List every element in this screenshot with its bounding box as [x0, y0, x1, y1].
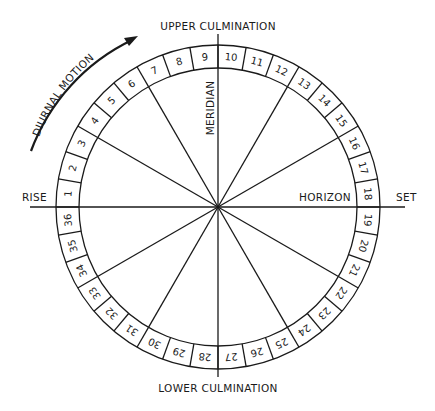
segment-number: 34: [74, 263, 89, 279]
lower-culmination-label: LOWER CULMINATION: [158, 382, 277, 394]
set-label: SET: [396, 191, 417, 203]
segment-number: 28: [198, 351, 212, 363]
upper-culmination-label: UPPER CULMINATION: [160, 20, 276, 32]
segment-number: 10: [224, 51, 238, 63]
segment-divider: [355, 179, 378, 183]
segment-number: 13: [296, 76, 313, 92]
segment-number: 16: [347, 135, 362, 151]
segment-number: 1: [62, 190, 74, 197]
segment-number: 17: [356, 160, 370, 175]
segment-number: 11: [249, 55, 264, 69]
segment-divider: [66, 152, 88, 160]
segment-divider: [137, 67, 149, 87]
segment-number: 26: [249, 345, 264, 359]
segment-number: 5: [105, 94, 117, 106]
segment-divider: [266, 338, 274, 360]
segment-number: 14: [316, 92, 333, 109]
segment-number: 32: [103, 305, 120, 322]
segment-divider: [66, 255, 88, 263]
arrow-head-icon: [124, 36, 138, 46]
horizon-label: HORIZON: [299, 191, 351, 203]
segment-number: 19: [362, 213, 374, 227]
segment-number: 23: [316, 305, 333, 322]
segment-divider: [163, 55, 171, 77]
segment-divider: [58, 231, 81, 235]
segment-divider: [355, 231, 378, 235]
segment-number: 3: [75, 138, 88, 148]
segment-number: 36: [62, 213, 74, 227]
segment-divider: [349, 152, 371, 160]
segment-divider: [349, 255, 371, 263]
hour-spoke: [149, 207, 219, 327]
segment-number: 18: [362, 187, 374, 201]
segment-number: 6: [126, 77, 138, 90]
segment-number: 8: [175, 55, 184, 67]
diurnal-motion-diagram: 1234567891011121314151617181920212223242…: [0, 0, 435, 411]
segment-number: 20: [356, 238, 370, 253]
hour-spoke: [218, 207, 338, 277]
rise-label: RISE: [22, 191, 47, 203]
hour-spoke: [98, 138, 218, 208]
segment-divider: [190, 47, 194, 70]
hour-spoke: [218, 207, 288, 327]
segment-divider: [242, 47, 246, 70]
hour-spoke: [218, 87, 288, 207]
segment-number: 21: [347, 263, 362, 279]
segment-number: 25: [274, 336, 290, 351]
segment-divider: [58, 179, 81, 183]
segment-number: 4: [88, 115, 101, 127]
segment-number: 27: [224, 351, 238, 363]
diurnal-motion-text-path: [38, 35, 130, 140]
segment-divider: [94, 103, 112, 118]
segment-divider: [190, 344, 194, 367]
segment-number: 9: [201, 51, 208, 63]
hour-spoke: [98, 207, 218, 277]
segment-number: 31: [123, 322, 140, 338]
segment-number: 35: [66, 238, 80, 253]
segment-divider: [163, 338, 171, 360]
segment-number: 24: [296, 322, 313, 338]
segment-number: 33: [87, 285, 103, 302]
segment-divider: [78, 126, 98, 138]
segment-divider: [242, 344, 246, 367]
segment-divider: [266, 55, 274, 77]
segment-number: 7: [149, 64, 159, 77]
segment-number: 15: [333, 112, 349, 129]
segment-number: 29: [171, 345, 186, 359]
segment-number: 22: [333, 285, 349, 302]
segment-divider: [114, 83, 129, 101]
meridian-label: MERIDIAN: [204, 81, 216, 136]
segment-number: 30: [146, 336, 162, 351]
diurnal-motion-arrow: [31, 40, 132, 151]
segment-number: 12: [274, 63, 290, 78]
segment-number: 2: [66, 164, 78, 173]
